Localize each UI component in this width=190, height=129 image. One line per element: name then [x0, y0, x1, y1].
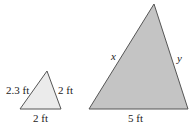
large-triangle: [89, 4, 188, 109]
small-right-side-label: 2 ft: [58, 84, 73, 96]
large-base-label: 5 ft: [128, 112, 143, 124]
small-base-label: 2 ft: [33, 112, 48, 124]
large-left-side-label: x: [110, 50, 116, 62]
large-right-side-label: y: [176, 52, 182, 64]
similar-triangles-diagram: 2.3 ft 2 ft 2 ft x y 5 ft: [0, 0, 190, 129]
small-left-side-label: 2.3 ft: [6, 84, 29, 96]
